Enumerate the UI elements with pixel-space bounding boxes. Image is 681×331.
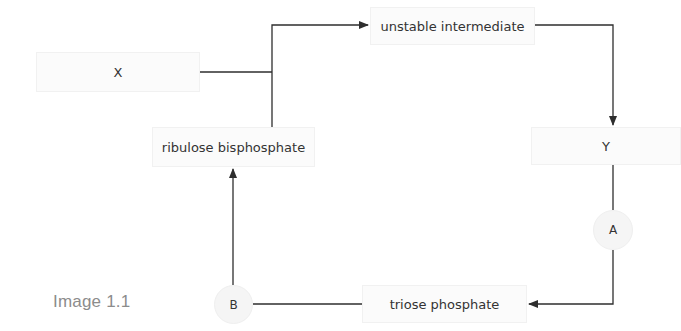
node-ribulose-bisphosphate: ribulose bisphosphate	[152, 127, 315, 167]
node-x: X	[36, 52, 200, 92]
node-y: Y	[531, 127, 681, 165]
circle-a: A	[593, 210, 633, 250]
edge-unstable-intermediate-to-y	[535, 25, 613, 125]
circle-b: B	[214, 285, 253, 324]
edge-a-to-triose-phosphate	[529, 250, 613, 304]
node-unstable-intermediate: unstable intermediate	[370, 7, 535, 45]
edge-junction-to-unstable-intermediate	[272, 25, 368, 127]
node-triose-phosphate: triose phosphate	[362, 285, 527, 323]
figure-caption: Image 1.1	[53, 292, 130, 312]
